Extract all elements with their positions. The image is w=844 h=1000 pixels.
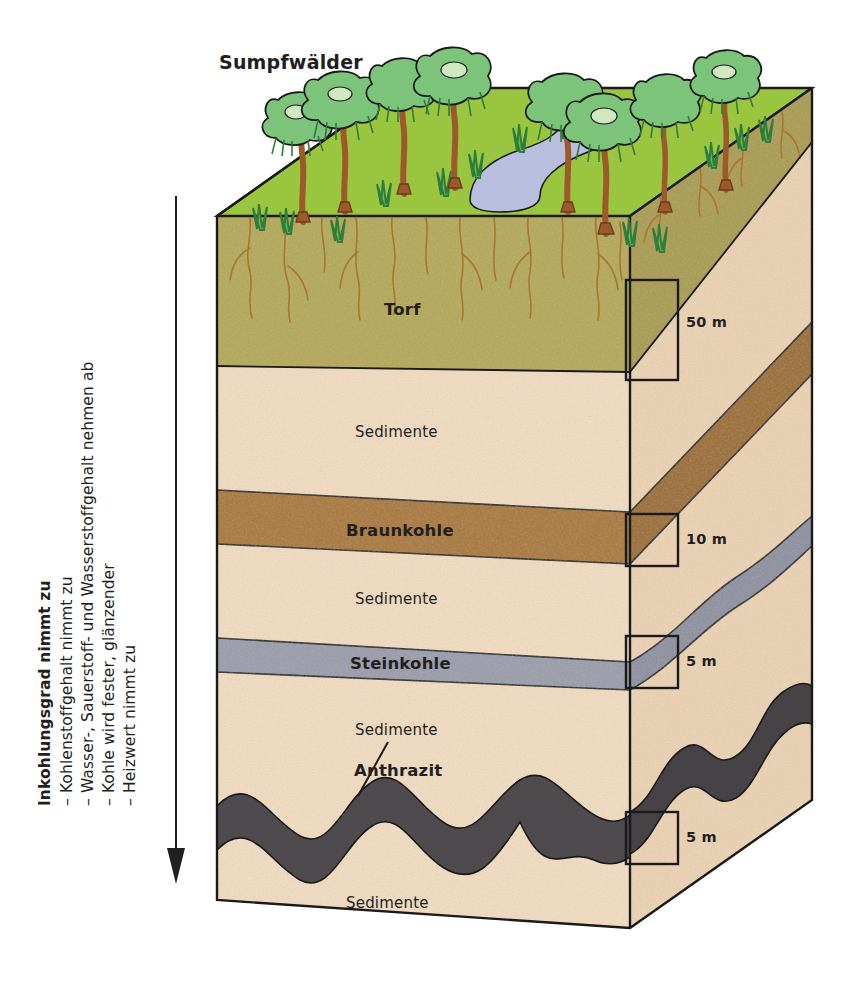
block-diagram-svg [0, 0, 844, 1000]
label-sedimente-2: Sedimente [355, 592, 438, 607]
layer-front-torf [217, 216, 630, 372]
label-steinkohle: Steinkohle [350, 656, 451, 673]
figure-canvas: Inkohlungsgrad nimmt zu – Kohlenstoffgeh… [0, 0, 844, 1000]
axis-heading: Inkohlungsgrad nimmt zu [36, 580, 54, 806]
label-anthrazit: Anthrazit [354, 763, 442, 780]
axis-bullet-3: – Kohle wird fester, glänzender [100, 563, 118, 806]
axis-bullet-4: – Heizwert nimmt zu [121, 645, 139, 806]
front-face [200, 200, 660, 960]
depth-label-steinkohle: 5 m [686, 654, 717, 669]
axis-bullet-2: – Wasser-, Sauerstoff- und Wasserstoffge… [79, 362, 97, 807]
label-braunkohle: Braunkohle [346, 523, 454, 540]
depth-label-anthrazit: 5 m [686, 830, 717, 845]
label-sedimente-1: Sedimente [355, 425, 438, 440]
axis-bullet-1: – Kohlenstoffgehalt nimmt zu [58, 576, 76, 806]
label-torf: Torf [384, 302, 421, 319]
label-sedimente-3: Sedimente [355, 723, 438, 738]
label-sedimente-4: Sedimente [346, 896, 429, 911]
depth-label-torf: 50 m [686, 315, 727, 330]
coalification-arrow [167, 196, 185, 884]
depth-label-braunkohle: 10 m [686, 532, 727, 547]
label-sumpfwaelder: Sumpfwälder [219, 53, 363, 72]
